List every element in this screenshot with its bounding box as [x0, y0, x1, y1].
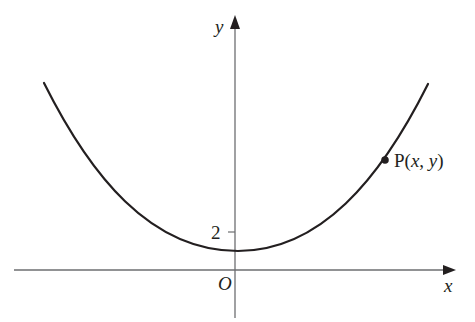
x-axis-arrow-icon [443, 265, 456, 275]
origin-label: O [218, 273, 232, 294]
point-p-label-y: y [427, 150, 438, 171]
graph-canvas: y x O 2 P(x, y) [0, 0, 475, 322]
x-axis-label: x [443, 275, 453, 296]
point-p-label-suffix: ) [437, 150, 443, 172]
point-p-marker [381, 156, 389, 164]
y-tick-label-2: 2 [211, 222, 221, 243]
y-axis-label: y [213, 16, 224, 37]
point-p-label: P(x, y) [394, 150, 444, 172]
point-p-label-sep: , [419, 150, 429, 171]
figure: y x O 2 P(x, y) [0, 0, 475, 322]
curve [44, 83, 428, 251]
point-p-label-prefix: P( [394, 150, 411, 172]
y-axis-arrow-icon [230, 15, 240, 29]
